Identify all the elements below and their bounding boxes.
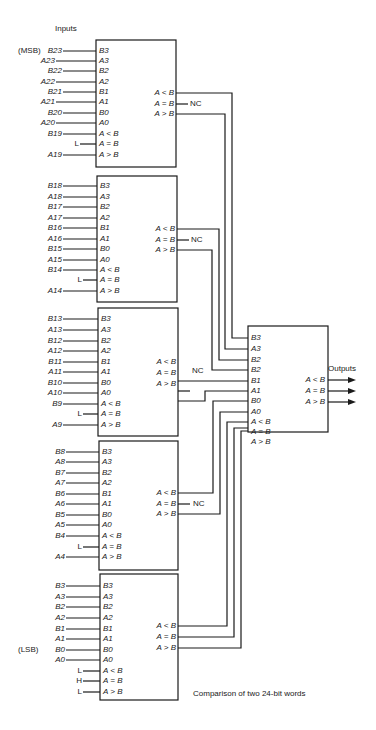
wire-stage2-gt xyxy=(177,250,248,370)
wire-stage3-gt xyxy=(178,391,248,401)
nc-label: NC xyxy=(191,236,203,244)
input-lines-stage-4 xyxy=(66,452,99,557)
nc-label: NC xyxy=(190,100,202,108)
inputs-heading: Inputs xyxy=(55,25,77,33)
nc-label: NC xyxy=(193,500,205,508)
figure-caption: Comparison of two 24-bit words xyxy=(193,690,306,698)
arrow-icon xyxy=(348,399,356,405)
outputs-heading: Outputs xyxy=(328,365,356,373)
nc-label: NC xyxy=(192,367,204,375)
arrow-icon xyxy=(348,388,356,394)
arrow-icon xyxy=(348,377,356,383)
wire-stage4-lt xyxy=(178,401,248,493)
